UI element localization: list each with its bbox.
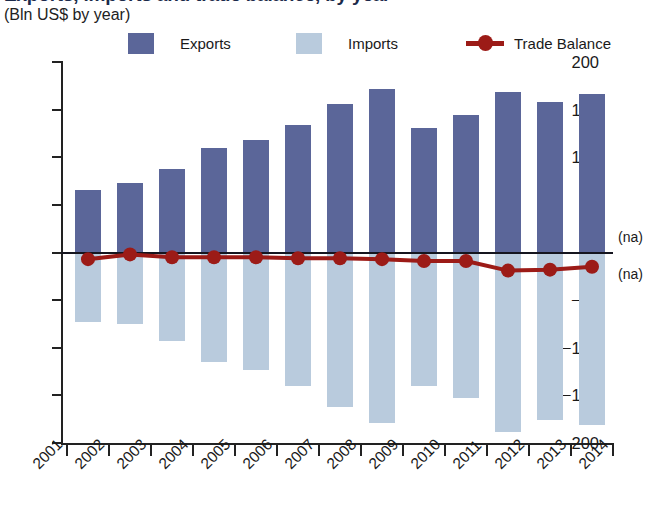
trade-balance-point — [291, 251, 305, 265]
legend-marker-trade-balance — [466, 33, 504, 54]
annotation-na-bottom: (na) — [618, 266, 643, 282]
trade-balance-point — [501, 264, 515, 278]
chart-root: Exports, imports and trade balance, by y… — [0, 0, 662, 510]
chart-subtitle: (Bln US$ by year) — [4, 6, 130, 24]
trade-balance-point — [207, 250, 221, 264]
legend-label-imports: Imports — [348, 35, 398, 52]
plot-area: 200150100500−50−100−150−200 200120022003… — [61, 62, 613, 445]
trade-balance-point — [123, 247, 137, 261]
trade-balance-line — [61, 62, 613, 445]
trade-balance-point — [165, 250, 179, 264]
legend-dot-marker-icon — [478, 35, 493, 51]
legend-swatch-exports — [128, 33, 154, 54]
legend-label-trade-balance: Trade Balance — [514, 35, 611, 52]
legend-swatch-imports — [296, 33, 322, 54]
trade-balance-point — [543, 263, 557, 277]
legend-item-exports[interactable]: Exports — [128, 30, 231, 56]
trade-balance-point — [249, 250, 263, 264]
trade-balance-point — [417, 254, 431, 268]
trade-balance-point — [81, 252, 95, 266]
legend-item-imports[interactable]: Imports — [296, 30, 398, 56]
annotation-na-top: (na) — [618, 229, 643, 245]
legend-label-exports: Exports — [180, 35, 231, 52]
trade-balance-point — [375, 252, 389, 266]
trade-balance-point — [459, 254, 473, 268]
trade-balance-point — [333, 251, 347, 265]
trade-balance-point — [585, 260, 599, 274]
